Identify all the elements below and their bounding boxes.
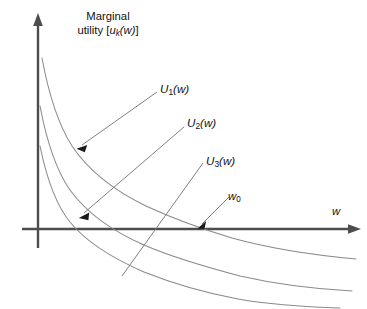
curve-label-u2: U2(w) xyxy=(187,116,216,131)
curve-label-u3-argument: (w) xyxy=(219,154,235,167)
y-axis-label-line2: utility [uk(w)] xyxy=(62,24,154,39)
y-axis-label-argument: (w) xyxy=(120,24,136,36)
point-label-w0-subscript: 0 xyxy=(236,195,241,204)
y-axis-label: Marginal utility [uk(w)] xyxy=(62,10,154,39)
x-axis-arrowhead xyxy=(348,224,361,234)
leader-line-u3 xyxy=(122,163,203,276)
leader-arrowhead-u2 xyxy=(79,213,89,221)
curves-group xyxy=(40,58,356,308)
y-axis-label-bracket-open: utility [ xyxy=(77,24,109,36)
curve-u3 xyxy=(40,146,340,308)
point-label-w0-symbol: w xyxy=(228,190,236,202)
leader-line-u1 xyxy=(82,92,157,145)
curve-label-u1-argument: (w) xyxy=(173,82,189,95)
marginal-utility-figure: Marginal utility [uk(w)] w U1(w) U2(w) U… xyxy=(0,0,367,309)
figure-canvas xyxy=(0,0,367,309)
x-axis-label: w xyxy=(332,205,340,219)
curve-label-u2-argument: (w) xyxy=(200,116,216,129)
y-axis-label-line1: Marginal xyxy=(86,10,129,22)
y-axis-arrowhead xyxy=(33,13,43,26)
curve-label-u1: U1(w) xyxy=(160,82,189,97)
y-axis-label-bracket-close: ] xyxy=(135,24,138,36)
leader-arrowhead-w0 xyxy=(198,221,207,229)
leader-line-w0 xyxy=(202,197,229,224)
curve-u2 xyxy=(40,106,352,291)
point-label-w0: w0 xyxy=(228,190,241,205)
curve-label-u3: U3(w) xyxy=(206,154,235,169)
leader-arrowhead-u1 xyxy=(77,145,88,152)
